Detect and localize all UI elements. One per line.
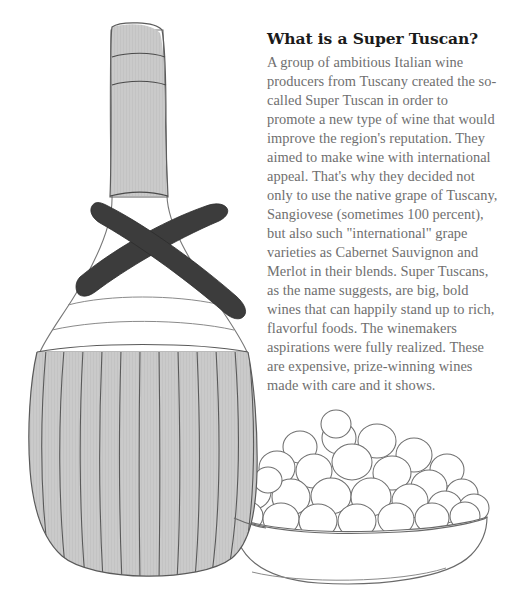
- grapes: [229, 410, 489, 538]
- article-body-text: A group of ambitious Italian wine produc…: [267, 53, 507, 396]
- wine-bottle: [20, 20, 270, 590]
- straw-basket: [20, 340, 270, 590]
- article: What is a Super Tuscan? A group of ambit…: [267, 30, 507, 395]
- page-title: What is a Super Tuscan?: [267, 30, 507, 49]
- page-root: What is a Super Tuscan? A group of ambit…: [0, 0, 514, 611]
- bottle-capsule: [100, 20, 180, 205]
- grape-bowl-group: [229, 410, 489, 584]
